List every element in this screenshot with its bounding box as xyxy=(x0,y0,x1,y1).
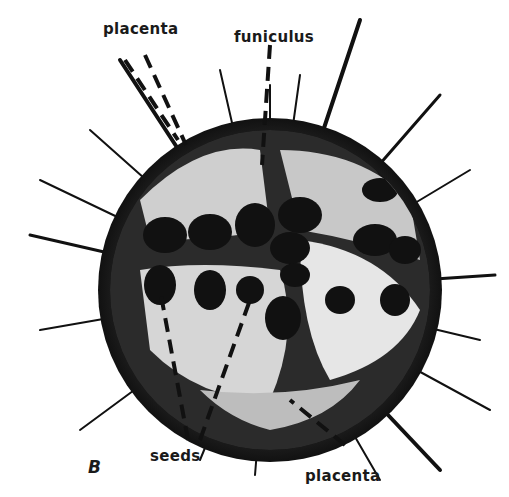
label-placenta-top: placenta xyxy=(103,20,178,38)
fruit-illustration xyxy=(0,0,509,497)
label-placenta-bottom: placenta xyxy=(305,467,380,485)
label-funiculus: funiculus xyxy=(234,28,314,46)
label-seeds: seeds xyxy=(150,447,200,465)
panel-letter: B xyxy=(88,457,101,477)
